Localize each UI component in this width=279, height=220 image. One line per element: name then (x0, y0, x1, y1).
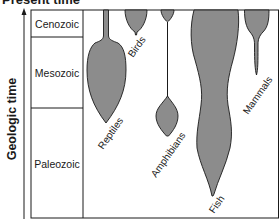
chart-frame (31, 10, 279, 218)
amphibians-spindle (156, 96, 178, 136)
label-birds: Birds (126, 34, 148, 59)
era-label-cenozoic: Cenozoic (35, 18, 79, 30)
amphibians-top-bulb (161, 10, 174, 22)
reptiles-spindle (87, 10, 126, 123)
label-reptiles: Reptiles (96, 115, 126, 151)
geologic-time-diagram: Cenozoic Mesozoic Paleozoic Birds Reptil… (0, 0, 279, 220)
era-label-paleozoic: Paleozoic (34, 158, 80, 170)
label-fish: Fish (207, 193, 227, 215)
geologic-time-axis-label: Geologic time (5, 69, 19, 169)
fish-spindle (191, 10, 239, 196)
birds-spindle (125, 10, 147, 35)
time-axis-arrow-icon (22, 8, 27, 219)
mammals-spindle (245, 10, 270, 75)
label-amphibians: Amphibians (149, 130, 188, 179)
label-mammals: Mammals (241, 74, 275, 116)
era-label-mesozoic: Mesozoic (35, 67, 79, 79)
